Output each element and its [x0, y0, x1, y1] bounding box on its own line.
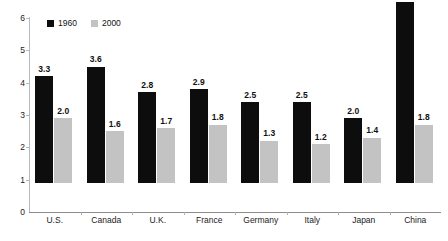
bar-group-Italy: 2.51.2 — [293, 0, 330, 183]
x-axis-category-label-France: France — [184, 216, 236, 225]
bar-pair: 5.61.8 — [396, 0, 433, 183]
bar-pair: 2.81.7 — [138, 0, 175, 183]
bar-pair: 2.91.8 — [190, 0, 227, 183]
bar-Germany-1960[interactable] — [241, 102, 259, 183]
bar-groups: 3.32.03.61.62.81.72.91.82.51.32.51.22.01… — [29, 0, 441, 212]
bar-value-label: 2.9 — [186, 78, 212, 87]
y-axis-tick-mark — [26, 180, 29, 181]
y-axis-tick-mark — [26, 115, 29, 116]
bar-U.S.-1960[interactable] — [35, 76, 53, 183]
y-axis-tick-label: 1 — [3, 176, 25, 185]
bar-value-label: 2.5 — [289, 91, 315, 100]
bar-group-Germany: 2.51.3 — [241, 0, 278, 183]
bar-value-label: 1.2 — [308, 133, 334, 142]
bar-U.S.-2000[interactable] — [54, 118, 72, 183]
bar-value-label: 1.8 — [411, 113, 437, 122]
bar-China-1960[interactable] — [396, 2, 414, 183]
y-axis-tick-label: 6 — [3, 14, 25, 23]
bar-value-label: 1.4 — [359, 126, 385, 135]
x-axis-tick-mark — [235, 212, 236, 215]
bar-value-label: 1.6 — [102, 120, 128, 129]
bar-Italy-1960[interactable] — [293, 102, 311, 183]
bar-value-label: 2.8 — [134, 81, 160, 90]
bar-Italy-2000[interactable] — [312, 144, 330, 183]
bar-group-Japan: 2.01.4 — [344, 0, 381, 183]
x-axis-tick-mark — [390, 212, 391, 215]
bar-group-U.K.: 2.81.7 — [138, 0, 175, 183]
y-axis-tick-label: 3 — [3, 111, 25, 120]
bar-group-China: 5.61.8 — [396, 0, 433, 183]
bar-value-label: 3.3 — [31, 65, 57, 74]
x-axis-category-label-Germany: Germany — [235, 216, 287, 225]
bar-China-2000[interactable] — [415, 125, 433, 183]
bar-value-label: 1.7 — [153, 117, 179, 126]
y-axis-tick-mark — [26, 147, 29, 148]
bar-pair: 2.51.2 — [293, 0, 330, 183]
bar-pair: 3.61.6 — [87, 0, 124, 183]
x-axis-tick-mark — [287, 212, 288, 215]
x-axis-category-label-U.S.: U.S. — [29, 216, 81, 225]
bar-Canada-2000[interactable] — [106, 131, 124, 183]
x-axis-category-label-China: China — [390, 216, 442, 225]
bar-U.K.-2000[interactable] — [157, 128, 175, 183]
bar-France-2000[interactable] — [209, 125, 227, 183]
bar-value-label: 1.8 — [205, 113, 231, 122]
bar-value-label: 1.3 — [256, 129, 282, 138]
x-axis-tick-mark — [132, 212, 133, 215]
bar-pair: 3.32.0 — [35, 0, 72, 183]
x-axis-category-label-Italy: Italy — [287, 216, 339, 225]
x-axis-tick-mark — [81, 212, 82, 215]
x-axis-tick-mark — [338, 212, 339, 215]
bar-value-label: 2.5 — [237, 91, 263, 100]
y-axis-tick-label: 4 — [3, 79, 25, 88]
y-axis-tick-label: 2 — [3, 143, 25, 152]
y-axis-tick-label: 5 — [3, 46, 25, 55]
y-axis-tick-labels: 6543210 — [0, 0, 25, 241]
bar-group-France: 2.91.8 — [190, 0, 227, 183]
x-axis-tick-mark — [184, 212, 185, 215]
bar-pair: 2.51.3 — [241, 0, 278, 183]
x-axis-category-label-Japan: Japan — [338, 216, 390, 225]
bar-pair: 2.01.4 — [344, 0, 381, 183]
bar-Japan-2000[interactable] — [363, 138, 381, 183]
bar-France-1960[interactable] — [190, 89, 208, 183]
y-axis-tick-mark — [26, 83, 29, 84]
x-axis-category-label-U.K.: U.K. — [132, 216, 184, 225]
y-axis-tick-label: 0 — [3, 208, 25, 217]
bar-value-label: 3.6 — [83, 55, 109, 64]
x-axis-category-label-Canada: Canada — [81, 216, 133, 225]
bar-group-Canada: 3.61.6 — [87, 0, 124, 183]
y-axis-tick-mark — [26, 18, 29, 19]
bar-chart: 6543210 19602000 3.32.03.61.62.81.72.91.… — [0, 0, 448, 241]
bar-group-U.S.: 3.32.0 — [35, 0, 72, 183]
bar-U.K.-1960[interactable] — [138, 92, 156, 183]
bar-value-label: 2.0 — [50, 107, 76, 116]
y-axis-tick-mark — [26, 50, 29, 51]
bar-Germany-2000[interactable] — [260, 141, 278, 183]
bar-value-label: 2.0 — [340, 107, 366, 116]
